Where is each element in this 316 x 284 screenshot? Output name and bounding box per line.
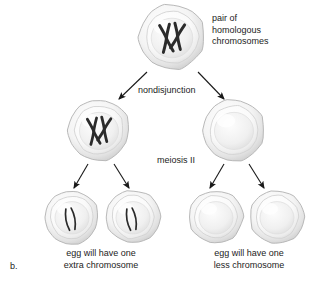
label-nondisjunction: nondisjunction — [138, 85, 196, 97]
specular-highlight — [262, 203, 278, 215]
caption-extra-chromosome: egg will have one extra chromosome — [38, 248, 164, 271]
arrow-left-to-g1 — [74, 164, 88, 188]
cell-gamete-3 — [190, 192, 244, 243]
cell-gamete-1 — [45, 191, 98, 244]
cell-gamete-2 — [106, 191, 161, 243]
cell-gamete-4 — [251, 191, 305, 243]
label-meiosis-ii: meiosis II — [157, 155, 195, 167]
nondisjunction-diagram: pair of homologous chromosomes nondisjun… — [0, 0, 316, 284]
label-pair-of-homologous-chromosomes: pair of homologous chromosomes — [212, 13, 269, 48]
caption-less-chromosome: egg will have one less chromosome — [186, 248, 312, 271]
panel-label: b. — [10, 261, 18, 273]
specular-highlight — [201, 203, 217, 215]
specular-highlight — [217, 114, 236, 128]
arrow-right-to-g3 — [210, 164, 224, 188]
arrow-parent-to-right — [198, 72, 224, 99]
cell-secondary-oocyte-left — [67, 101, 128, 161]
cell-secondary-oocyte-right — [203, 100, 264, 161]
arrow-left-to-g2 — [114, 164, 129, 188]
cell-parent-cell — [138, 4, 203, 69]
arrow-right-to-g4 — [249, 164, 264, 188]
